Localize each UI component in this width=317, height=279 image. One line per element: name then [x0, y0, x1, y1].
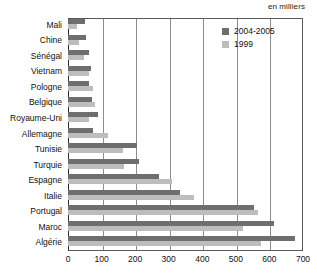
legend-label: 2004-2005 — [234, 26, 275, 36]
bar-chart: en milliers MaliChineSénégalVietnamPolog… — [0, 0, 317, 279]
bar-group — [68, 80, 303, 96]
bar-1999 — [68, 133, 108, 138]
bar-1999 — [68, 164, 124, 169]
category-label: Belgique — [29, 98, 62, 107]
chart-legend: 2004-20051999 — [222, 26, 296, 52]
category-label: Sénégal — [31, 52, 62, 61]
x-tick-label: 700 — [296, 254, 310, 264]
category-label: Royaume-Uni — [10, 114, 62, 123]
bar-1999 — [68, 102, 95, 107]
legend-item: 2004-2005 — [222, 26, 296, 36]
category-label: Pologne — [31, 83, 62, 92]
value-axis-labels: 0100200300400500600700 — [0, 254, 317, 268]
x-tick-label: 200 — [128, 254, 142, 264]
legend-item: 1999 — [222, 39, 296, 49]
bar-group — [68, 158, 303, 174]
x-tick-label: 500 — [229, 254, 243, 264]
bar-group — [68, 111, 303, 127]
bar-1999 — [68, 71, 89, 76]
category-label: Tunisie — [35, 145, 62, 154]
x-tick-label: 600 — [262, 254, 276, 264]
bars-layer — [68, 18, 303, 251]
bar-1999 — [68, 210, 258, 215]
bar-1999 — [68, 86, 93, 91]
bar-1999 — [68, 241, 261, 246]
bar-group — [68, 65, 303, 81]
unit-caption: en milliers — [268, 2, 305, 11]
legend-swatch-2004-2005 — [222, 28, 229, 35]
x-tick-label: 0 — [66, 254, 71, 264]
bar-1999 — [68, 226, 243, 231]
bar-1999 — [68, 195, 194, 200]
x-tick-label: 300 — [162, 254, 176, 264]
bar-group — [68, 173, 303, 189]
bar-group — [68, 96, 303, 112]
bar-group — [68, 204, 303, 220]
category-label: Algérie — [36, 238, 62, 247]
bar-group — [68, 142, 303, 158]
category-label: Portugal — [30, 207, 62, 216]
category-label: Maroc — [38, 223, 62, 232]
category-axis-labels: MaliChineSénégalVietnamPologneBelgiqueRo… — [0, 18, 65, 251]
category-label: Mali — [46, 21, 62, 30]
category-label: Turquie — [33, 161, 62, 170]
x-tick-label: 400 — [195, 254, 209, 264]
bar-1999 — [68, 117, 89, 122]
bar-1999 — [68, 55, 84, 60]
bar-group — [68, 235, 303, 251]
bar-group — [68, 127, 303, 143]
bar-1999 — [68, 148, 123, 153]
bar-group — [68, 220, 303, 236]
legend-label: 1999 — [234, 39, 253, 49]
bar-1999 — [68, 40, 79, 45]
category-label: Chine — [40, 36, 62, 45]
bar-1999 — [68, 179, 172, 184]
legend-swatch-1999 — [222, 41, 229, 48]
category-label: Espagne — [28, 176, 62, 185]
x-tick-label: 100 — [94, 254, 108, 264]
bar-1999 — [68, 24, 77, 29]
category-label: Italie — [44, 192, 62, 201]
category-label: Allemagne — [22, 130, 62, 139]
category-label: Vietnam — [31, 67, 62, 76]
bar-group — [68, 189, 303, 205]
